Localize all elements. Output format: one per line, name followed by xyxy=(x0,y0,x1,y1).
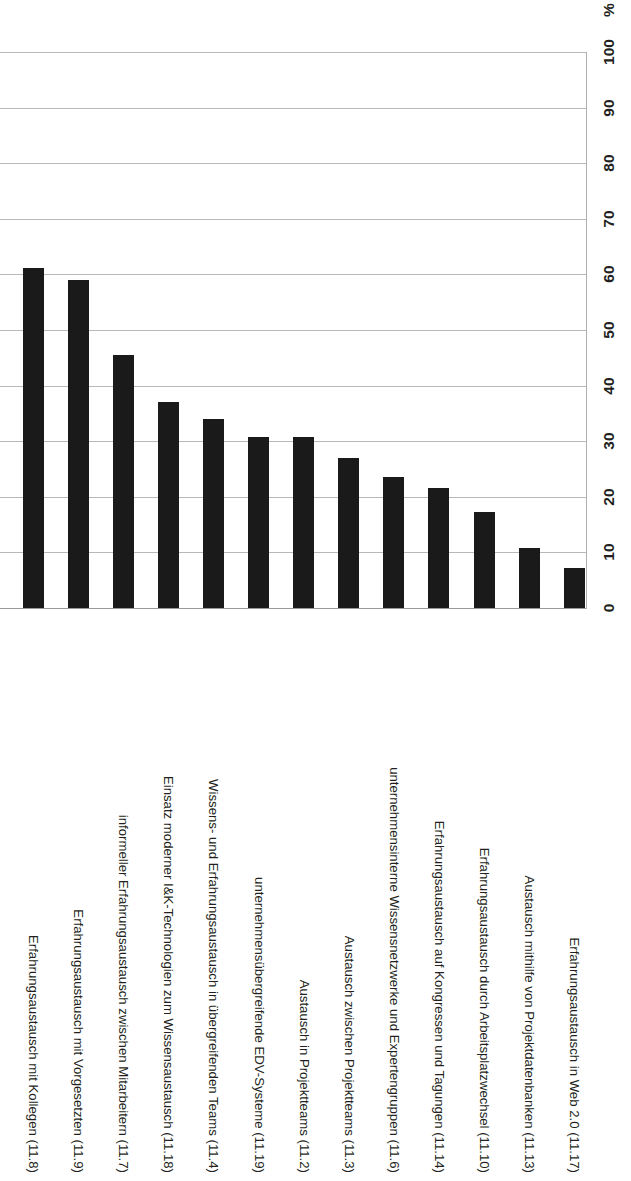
category-label: informeller Erfahrungsaustausch zwischen… xyxy=(111,620,135,1181)
category-label: Einsatz moderner I&K-Technologien zum Wi… xyxy=(156,620,180,1181)
plot-area xyxy=(0,0,587,620)
bar xyxy=(158,402,179,608)
bar xyxy=(564,568,585,608)
bar xyxy=(23,268,44,608)
category-label-slot: Erfahrungsaustausch mit Kollegen (11.8) xyxy=(21,620,45,1181)
bar xyxy=(428,488,449,608)
bar xyxy=(248,437,269,608)
value-tick-label-10: 10 xyxy=(601,530,617,574)
category-label-slot: Austausch in Projektteams (11.2) xyxy=(292,620,316,1181)
category-label-slot: Wissens- und Erfahrungsaustausch in über… xyxy=(201,620,225,1181)
bar xyxy=(293,437,314,608)
category-label-slot: Erfahrungsaustausch auf Kongressen und T… xyxy=(427,620,451,1181)
category-label: Erfahrungsaustausch mit Vorgesetzten (11… xyxy=(66,620,90,1181)
value-tick-label-90: 90 xyxy=(601,86,617,130)
category-label-slot: Einsatz moderner I&K-Technologien zum Wi… xyxy=(156,620,180,1181)
category-label: Erfahrungsaustausch auf Kongressen und T… xyxy=(427,620,451,1181)
bar xyxy=(519,548,540,608)
category-label-slot: Austausch mithilfe von Projektdatenbanke… xyxy=(517,620,541,1181)
value-tick-label-40: 40 xyxy=(601,364,617,408)
category-label: Erfahrungsaustausch durch Arbeitsplatzwe… xyxy=(472,620,496,1181)
category-label: Wissens- und Erfahrungsaustausch in über… xyxy=(201,620,225,1181)
value-tick-label-20: 20 xyxy=(601,475,617,519)
bar xyxy=(474,512,495,608)
axis-unit-label: % xyxy=(601,0,617,32)
category-axis-labels: Erfahrungsaustausch mit Kollegen (11.8)E… xyxy=(0,620,631,1181)
category-label-slot: Erfahrungsaustausch in Web 2.0 (11.17) xyxy=(562,620,586,1181)
category-label-slot: Erfahrungsaustausch durch Arbeitsplatzwe… xyxy=(472,620,496,1181)
value-tick-label-30: 30 xyxy=(601,419,617,463)
category-label-slot: Erfahrungsaustausch mit Vorgesetzten (11… xyxy=(66,620,90,1181)
bar xyxy=(203,419,224,608)
value-tick-label-100: 100 xyxy=(601,30,617,74)
category-label: Austausch zwischen Projektteams (11.3) xyxy=(337,620,361,1181)
value-tick-label-50: 50 xyxy=(601,308,617,352)
category-label-slot: unternehmensübergreifende EDV-Systeme (1… xyxy=(247,620,271,1181)
category-label-slot: informeller Erfahrungsaustausch zwischen… xyxy=(111,620,135,1181)
value-tick-label-80: 80 xyxy=(601,141,617,185)
value-tick-label-70: 70 xyxy=(601,197,617,241)
category-label: Erfahrungsaustausch in Web 2.0 (11.17) xyxy=(562,620,586,1181)
category-label: Austausch mithilfe von Projektdatenbanke… xyxy=(517,620,541,1181)
bar-chart-figure: % 0102030405060708090100 Erfahrungsausta… xyxy=(0,0,631,1181)
category-label-slot: unternehmensinterne Wissensnetzwerke und… xyxy=(382,620,406,1181)
category-label: unternehmensinterne Wissensnetzwerke und… xyxy=(382,620,406,1181)
category-label: Erfahrungsaustausch mit Kollegen (11.8) xyxy=(21,620,45,1181)
bar xyxy=(338,458,359,608)
category-label: Austausch in Projektteams (11.2) xyxy=(292,620,316,1181)
category-label-slot: Austausch zwischen Projektteams (11.3) xyxy=(337,620,361,1181)
bar xyxy=(113,355,134,608)
bar xyxy=(68,280,89,608)
value-axis-tick-labels: % 0102030405060708090100 xyxy=(587,0,631,620)
category-label: unternehmensübergreifende EDV-Systeme (1… xyxy=(247,620,271,1181)
value-tick-label-60: 60 xyxy=(601,252,617,296)
bar xyxy=(383,477,404,608)
bar-series xyxy=(0,0,587,620)
